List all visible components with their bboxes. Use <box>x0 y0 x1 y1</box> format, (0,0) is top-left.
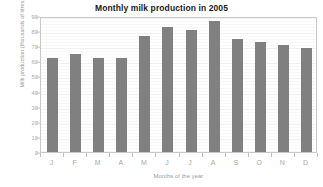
plot-area <box>40 17 317 153</box>
bar <box>47 58 58 152</box>
x-tick-label: O <box>250 159 268 166</box>
x-tick-mark <box>294 153 295 157</box>
y-tick-mark <box>36 122 40 123</box>
x-tick-label: A <box>204 159 222 166</box>
bar <box>209 21 220 152</box>
y-tick-label: 30 <box>12 105 38 111</box>
bar <box>255 42 266 152</box>
bar-chart: Monthly milk production in 2005 Milk pro… <box>0 0 323 187</box>
x-tick-mark <box>271 153 272 157</box>
x-tick-mark <box>63 153 64 157</box>
x-tick-mark <box>86 153 87 157</box>
x-tick-mark <box>317 153 318 157</box>
x-tick-mark <box>109 153 110 157</box>
x-tick-label: D <box>296 159 314 166</box>
y-tick-mark <box>36 107 40 108</box>
x-tick-label: M <box>135 159 153 166</box>
x-tick-mark <box>40 153 41 157</box>
y-tick-label: 80 <box>12 29 38 35</box>
x-tick-label: F <box>66 159 84 166</box>
bar <box>301 48 312 152</box>
y-tick-label: 40 <box>12 90 38 96</box>
bar <box>278 45 289 152</box>
y-tick-mark <box>36 17 40 18</box>
x-tick-mark <box>155 153 156 157</box>
y-tick-label: 0 <box>12 150 38 156</box>
bar <box>162 27 173 152</box>
y-tick-mark <box>36 77 40 78</box>
y-tick-label: 70 <box>12 44 38 50</box>
x-tick-mark <box>179 153 180 157</box>
x-tick-mark <box>132 153 133 157</box>
x-tick-label: M <box>89 159 107 166</box>
bar <box>93 58 104 152</box>
x-tick-label: S <box>227 159 245 166</box>
y-tick-label: 20 <box>12 120 38 126</box>
y-tick-mark <box>36 32 40 33</box>
bar <box>139 36 150 152</box>
x-tick-label: N <box>273 159 291 166</box>
x-tick-mark <box>248 153 249 157</box>
bar <box>186 30 197 152</box>
x-tick-mark <box>225 153 226 157</box>
x-tick-label: J <box>43 159 61 166</box>
bars-group <box>41 18 316 152</box>
y-tick-mark <box>36 62 40 63</box>
x-tick-label: J <box>181 159 199 166</box>
y-tick-mark <box>36 47 40 48</box>
bar <box>116 58 127 152</box>
chart-title: Monthly milk production in 2005 <box>0 3 323 13</box>
y-tick-label: 90 <box>12 14 38 20</box>
bar <box>70 54 81 152</box>
y-tick-label: 50 <box>12 74 38 80</box>
x-tick-label: J <box>158 159 176 166</box>
x-axis-title: Months of the year <box>40 173 317 179</box>
bar <box>232 39 243 152</box>
x-tick-label: A <box>112 159 130 166</box>
y-tick-label: 60 <box>12 59 38 65</box>
y-tick-label: 10 <box>12 135 38 141</box>
y-tick-mark <box>36 92 40 93</box>
y-tick-mark <box>36 137 40 138</box>
x-tick-mark <box>202 153 203 157</box>
